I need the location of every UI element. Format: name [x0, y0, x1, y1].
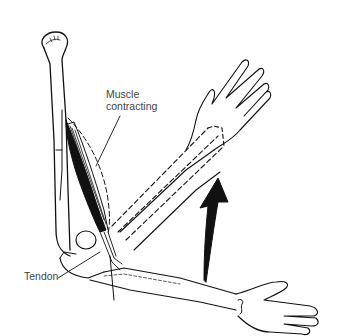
arm-flexion-diagram: [0, 0, 344, 336]
motion-arrow-icon: [200, 178, 228, 282]
tendon-leader-line: [58, 252, 100, 278]
tendon-label: Tendon: [24, 270, 58, 282]
muscle-leader-line: [96, 116, 120, 166]
hand-raised: [186, 60, 271, 150]
hand-lowered: [236, 281, 318, 334]
muscle-contracting-label: Muscle contracting: [106, 88, 157, 112]
tendon: [100, 232, 122, 300]
muscle-label-line2: contracting: [106, 100, 157, 112]
biceps-muscle: [56, 110, 110, 234]
muscle-label-line1: Muscle: [106, 88, 157, 100]
